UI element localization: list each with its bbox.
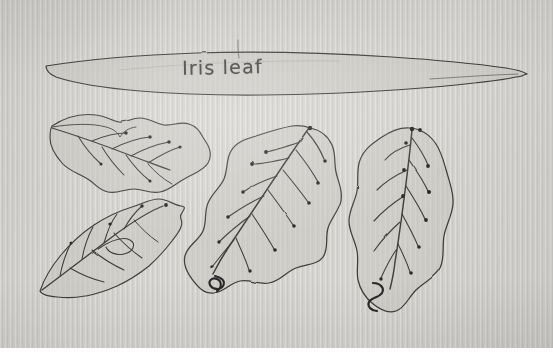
paper-sheet: Iris leaf [0,0,553,348]
vein-tip-dot [418,128,422,132]
vein-tip-dot [292,224,296,228]
specimen-leaf-right [349,127,453,312]
vein-tip-dot [248,269,251,272]
vein-tip-dot [424,218,428,222]
vein-tip-dot [273,248,277,252]
specimen-leaf-upper-left [50,115,210,193]
vein-tip-dot [316,181,320,185]
vein-tip-dot [164,203,168,207]
specimen-leaf-lower-left [40,199,186,298]
vein-tip-dot [241,190,245,194]
vein-tip-dot [149,180,152,183]
vein-tip-dot [379,277,382,280]
vein-tip-dot [402,168,406,172]
vein-tip-dot [108,222,111,225]
vein-tip-dot [148,135,151,138]
specimen-iris-blade [46,40,527,95]
vein-tip-dot [210,265,213,268]
leaf-drawings-layer [0,0,553,348]
vein-tip-dot [124,131,127,134]
vein-tip-dot [100,163,103,166]
leaf-upper-left-outline [50,115,210,193]
vein-tip-dot [417,245,421,249]
vein-tip-dot [167,140,171,144]
vein-tip-dot [140,204,143,207]
vein-tip-dot [250,162,254,166]
vein-tip-dot [426,164,430,168]
iris-blade-outline [46,52,527,95]
vein-tip-dot [307,201,311,205]
vein-tip-dot [308,126,312,130]
vein-tip-dot [226,215,230,219]
vein-tip-dot [409,271,413,275]
vein-tip-dot [323,159,327,163]
vein-tip-dot [70,242,73,245]
vein-tip-dot [410,127,414,131]
vein-tip-dot [178,145,181,148]
photograph-frame: Iris leaf [0,0,553,359]
vein-tip-dot [404,141,408,145]
leaf-lower-left-outline [40,199,184,298]
vein-tip-dot [401,194,405,198]
vein-tip-dot [264,150,268,154]
vein-tip-dot [217,240,220,243]
vein-tip-dot [427,190,431,194]
